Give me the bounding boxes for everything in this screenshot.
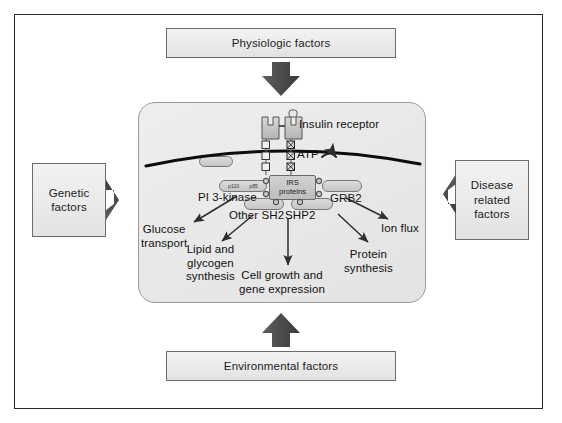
output-label-lipid-glycogen-synthesis: Lipid and glycogen synthesis bbox=[186, 243, 235, 284]
irs-proteins-box: IRS proteins bbox=[269, 175, 316, 200]
grb2-label: GRB2 bbox=[330, 192, 362, 206]
output-label-ion-flux: Ion flux bbox=[381, 222, 419, 236]
glucose-line1: Glucose bbox=[141, 223, 187, 237]
input-box-genetic-factors: Genetic factors bbox=[32, 163, 106, 237]
physiologic-factors-label: Physiologic factors bbox=[232, 36, 331, 50]
pi3-kinase-label: PI 3-kinase bbox=[198, 191, 257, 205]
disease-factors-label-line3: factors bbox=[471, 207, 514, 221]
ionflux-line1: Ion flux bbox=[381, 222, 419, 236]
cellgrowth-line1: Cell growth and bbox=[239, 269, 325, 283]
genetic-factors-label-line1: Genetic bbox=[49, 186, 90, 200]
glucose-line2: transport bbox=[141, 237, 187, 251]
other-sh2-label: Other SH2 bbox=[229, 209, 284, 223]
pi3k-p85-label: p85 bbox=[249, 183, 258, 189]
irs-label-line2: proteins bbox=[279, 188, 306, 196]
diagram-canvas: Physiologic factors Environmental factor… bbox=[0, 0, 562, 423]
genetic-factors-label-line2: factors bbox=[49, 200, 90, 214]
cellgrowth-line2: gene expression bbox=[239, 283, 325, 297]
disease-factors-label-line2: related bbox=[471, 193, 514, 207]
input-box-physiologic-factors: Physiologic factors bbox=[166, 28, 396, 58]
output-label-cell-growth-gene-expression: Cell growth and gene expression bbox=[239, 269, 325, 296]
lipid-line1: Lipid and bbox=[186, 243, 235, 257]
input-box-environmental-factors: Environmental factors bbox=[166, 351, 396, 381]
shp2-label: SHP2 bbox=[285, 209, 315, 223]
lipid-line2: glycogen bbox=[186, 257, 235, 271]
protein-line1: Protein bbox=[344, 248, 393, 262]
environmental-factors-label: Environmental factors bbox=[224, 359, 338, 373]
output-label-glucose-transport: Glucose transport bbox=[141, 223, 187, 250]
input-box-disease-related-factors: Disease related factors bbox=[455, 160, 529, 240]
lipid-line3: synthesis bbox=[186, 270, 235, 284]
output-label-protein-synthesis: Protein synthesis bbox=[344, 248, 393, 275]
unlabeled-membrane-protein-capsule bbox=[199, 156, 233, 167]
atp-label: ATP bbox=[297, 148, 319, 162]
insulin-receptor-label: Insulin receptor bbox=[299, 118, 379, 132]
protein-line2: synthesis bbox=[344, 262, 393, 276]
pi3k-p110-label: p110 bbox=[228, 183, 239, 189]
disease-factors-label-line1: Disease bbox=[471, 178, 514, 192]
grb2-capsule bbox=[322, 180, 362, 192]
